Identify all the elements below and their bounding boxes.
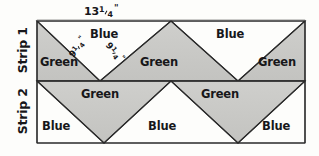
top-width-fraction: 14 <box>99 9 114 17</box>
strip-2-name-label: Strip 2 <box>17 87 30 135</box>
strip-1-name-label: Strip 1 <box>17 26 30 74</box>
strip-1-patch-1-label: Green <box>40 57 78 69</box>
quilt-strip-diagram: 1314" Strip 1 Strip 2 Green Blue Green B… <box>0 0 319 156</box>
strip-2-patch-4-label: Green <box>201 89 239 101</box>
strip-2-patch-5-label: Blue <box>262 121 290 133</box>
top-width-unit: " <box>114 3 118 13</box>
strip-2-patch-1-label: Blue <box>42 121 70 133</box>
strip-1-patch-3-label: Green <box>140 57 178 69</box>
strip-1-patch-4-label: Blue <box>216 29 244 41</box>
strip-1-patch-2-label: Blue <box>90 29 118 41</box>
strip-1-patch-5-label: Green <box>258 57 296 69</box>
top-width-dimension-label: 1314" <box>84 4 118 17</box>
fraction-bar-icon <box>104 11 107 15</box>
strip-2-patch-3-label: Blue <box>148 121 176 133</box>
strip-2-patch-2-label: Green <box>81 89 119 101</box>
top-width-value: 13 <box>84 5 99 18</box>
top-width-denominator: 4 <box>108 10 113 19</box>
